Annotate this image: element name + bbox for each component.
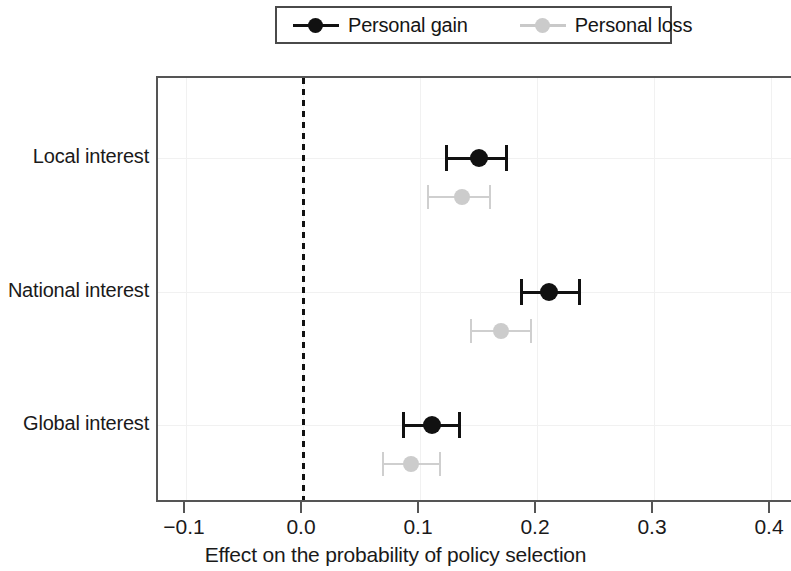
legend-label-personal-loss: Personal loss — [575, 14, 692, 37]
x-axis-tick — [183, 502, 185, 513]
plot-frame — [156, 76, 791, 502]
gridline-horizontal — [158, 425, 791, 426]
y-axis-category-label: Global interest — [23, 412, 149, 435]
point-estimate-marker — [423, 416, 441, 434]
x-axis-tick — [768, 502, 770, 513]
x-axis-tick-label: 0.1 — [403, 515, 432, 539]
x-axis-tick-label: 0.4 — [754, 515, 783, 539]
x-axis-title: Effect on the probability of policy sele… — [0, 543, 791, 567]
confidence-interval-cap-lower — [445, 145, 448, 171]
gridline-vertical — [537, 78, 538, 500]
point-estimate-marker — [540, 283, 558, 301]
x-axis-tick — [417, 502, 419, 513]
confidence-interval-cap-lower — [402, 412, 405, 438]
gridline-vertical — [771, 78, 772, 500]
point-estimate-marker — [403, 456, 419, 472]
confidence-interval-cap-upper — [439, 452, 441, 476]
confidence-interval-cap-upper — [458, 412, 461, 438]
gridline-vertical — [186, 78, 187, 500]
confidence-interval-cap-upper — [505, 145, 508, 171]
confidence-interval-cap-upper — [578, 279, 581, 305]
gridline-vertical — [420, 78, 421, 500]
legend-label-personal-gain: Personal gain — [348, 14, 468, 37]
point-estimate-marker — [493, 323, 509, 339]
confidence-interval-cap-lower — [382, 452, 384, 476]
x-axis-tick — [534, 502, 536, 513]
x-axis-tick-label: 0.0 — [286, 515, 315, 539]
confidence-interval-cap-upper — [530, 319, 532, 343]
gridline-horizontal — [158, 292, 791, 293]
x-axis-tick-label: 0.2 — [520, 515, 549, 539]
confidence-interval-cap-lower — [470, 319, 472, 343]
plot-area — [158, 78, 791, 500]
legend-marker-personal-gain-icon — [293, 16, 339, 34]
legend-entry-personal-gain: Personal gain — [293, 8, 468, 42]
dot-whisker-chart: Personal gain Personal loss −0.10.00.10.… — [0, 0, 791, 571]
y-axis-category-label: National interest — [8, 279, 149, 302]
confidence-interval-cap-lower — [520, 279, 523, 305]
x-axis-tick-label: −0.1 — [163, 515, 204, 539]
legend-marker-personal-loss-icon — [520, 16, 566, 34]
zero-reference-line — [302, 78, 305, 500]
y-axis-category-label: Local interest — [33, 145, 149, 168]
point-estimate-marker — [454, 189, 470, 205]
chart-legend: Personal gain Personal loss — [275, 6, 672, 44]
gridline-vertical — [654, 78, 655, 500]
x-axis-tick — [651, 502, 653, 513]
x-axis-tick — [300, 502, 302, 513]
confidence-interval-cap-lower — [427, 185, 429, 209]
legend-entry-personal-loss: Personal loss — [520, 8, 692, 42]
confidence-interval-cap-upper — [489, 185, 491, 209]
point-estimate-marker — [470, 149, 488, 167]
x-axis-tick-label: 0.3 — [637, 515, 666, 539]
